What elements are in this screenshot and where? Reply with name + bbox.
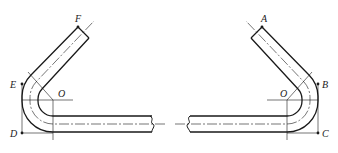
right-pipe-inner-wall bbox=[190, 38, 302, 116]
diagram-canvas: F E O D A B O C bbox=[0, 0, 338, 153]
point-C bbox=[317, 132, 320, 135]
label-O-left: O bbox=[58, 88, 65, 99]
point-F bbox=[77, 26, 80, 29]
left-diagonal-construction bbox=[28, 72, 53, 100]
point-E bbox=[21, 83, 24, 86]
right-pipe-centerline bbox=[175, 21, 310, 124]
label-C: C bbox=[322, 128, 329, 139]
label-F: F bbox=[74, 13, 82, 24]
label-B: B bbox=[322, 79, 328, 90]
label-E: E bbox=[9, 79, 16, 90]
label-A: A bbox=[260, 13, 268, 24]
right-pipe bbox=[175, 21, 318, 140]
label-O-right: O bbox=[280, 88, 287, 99]
left-pipe bbox=[22, 21, 165, 140]
point-B bbox=[317, 83, 320, 86]
right-diagonal-construction bbox=[287, 72, 312, 100]
point-A bbox=[261, 26, 264, 29]
left-pipe-centerline bbox=[30, 21, 165, 124]
label-D: D bbox=[9, 128, 18, 139]
right-pipe-break bbox=[187, 116, 190, 132]
point-D bbox=[21, 132, 24, 135]
